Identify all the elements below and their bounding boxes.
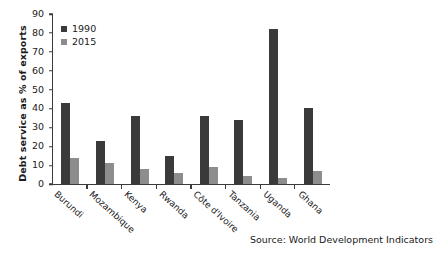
bar-1990 xyxy=(165,156,174,184)
y-axis-tick-label: 90 xyxy=(32,8,44,19)
legend-swatch-icon-2015 xyxy=(61,39,67,45)
bar-1990 xyxy=(61,103,70,184)
bar-2015 xyxy=(174,173,183,184)
x-axis-tick-label: Rwanda xyxy=(157,189,190,221)
x-axis-tick-label: Uganda xyxy=(261,189,294,220)
bar-group xyxy=(261,14,296,184)
y-axis-tick: 60 xyxy=(32,66,53,76)
bar-group xyxy=(122,14,157,184)
x-axis-label-cell: Kenya xyxy=(122,187,157,247)
x-axis-tick-label: Burundi xyxy=(53,189,86,220)
bar-2015 xyxy=(140,169,149,184)
legend-item-1990: 1990 xyxy=(61,22,96,35)
bar-2015 xyxy=(70,158,79,184)
bar-2015 xyxy=(209,167,218,184)
y-axis-tick: 70 xyxy=(32,47,53,57)
y-axis-tick-label: 70 xyxy=(32,46,44,57)
y-axis-tick-label: 40 xyxy=(32,103,44,114)
bar-2015 xyxy=(243,176,252,184)
x-axis-tick-label: Kenya xyxy=(122,189,149,215)
y-axis-tick-label: 10 xyxy=(32,159,44,170)
bar-group xyxy=(192,14,227,184)
source-note: Source: World Development Indicators xyxy=(250,234,433,245)
bar-2015 xyxy=(313,171,322,184)
y-axis-tick: 40 xyxy=(32,104,53,114)
x-axis-label-cell: Côte d'Ivoire xyxy=(191,187,226,247)
bar-1990 xyxy=(131,116,140,184)
y-axis-tick: 10 xyxy=(32,160,53,170)
y-axis-tick-label: 80 xyxy=(32,27,44,38)
bar-1990 xyxy=(200,116,209,184)
bar-1990 xyxy=(304,108,313,184)
legend-item-2015: 2015 xyxy=(61,35,96,48)
y-axis-tick: 50 xyxy=(32,85,53,95)
y-axis-tick-label: 50 xyxy=(32,84,44,95)
y-axis-tick: 20 xyxy=(32,141,53,151)
chart-legend: 1990 2015 xyxy=(61,22,96,48)
x-axis-tick-label: Tanzania xyxy=(226,189,262,223)
x-axis-label-cell: Mozambique xyxy=(87,187,122,247)
bar-2015 xyxy=(278,178,287,184)
bar-group xyxy=(226,14,261,184)
y-axis-tick: 30 xyxy=(32,123,53,133)
x-axis-label-cell: Rwanda xyxy=(156,187,191,247)
x-axis-tick-label: Ghana xyxy=(296,189,325,216)
y-axis-tick: 80 xyxy=(32,28,53,38)
y-axis-tick-label: 60 xyxy=(32,65,44,76)
legend-label-1990: 1990 xyxy=(72,22,96,35)
bar-2015 xyxy=(105,163,114,184)
y-axis-tick: 0 xyxy=(38,179,53,189)
bar-1990 xyxy=(269,29,278,184)
chart-figure: Debt service as % of exports 90807060504… xyxy=(0,0,439,253)
y-axis-tick: 90 xyxy=(32,9,53,19)
x-axis-label-cell: Burundi xyxy=(52,187,87,247)
bar-1990 xyxy=(96,141,105,184)
y-axis-title: Debt service as % of exports xyxy=(17,14,28,194)
y-axis-tick-label: 30 xyxy=(32,122,44,133)
bar-group xyxy=(157,14,192,184)
legend-swatch-icon-1990 xyxy=(61,26,67,32)
legend-label-2015: 2015 xyxy=(72,35,96,48)
bar-1990 xyxy=(234,120,243,184)
y-axis-tick-label: 20 xyxy=(32,140,44,151)
y-axis-tick-label: 0 xyxy=(38,178,44,189)
bar-group xyxy=(295,14,330,184)
